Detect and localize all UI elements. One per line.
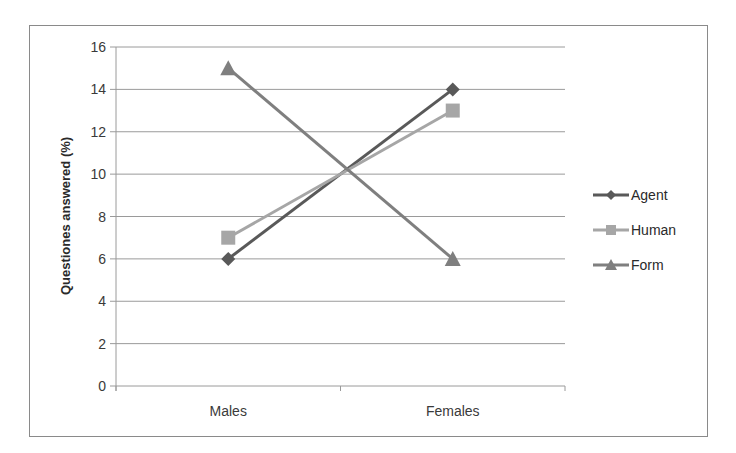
y-tick-label: 8: [98, 209, 106, 225]
legend-item-human: Human: [593, 222, 676, 238]
y-tick-label: 0: [98, 378, 106, 394]
triangle-marker-icon: [220, 60, 236, 75]
x-tick-label: Females: [426, 403, 480, 419]
axes: [110, 47, 565, 391]
diamond-marker-icon: [606, 190, 616, 200]
data-series: [220, 60, 461, 266]
x-tick-label: Males: [210, 403, 247, 419]
y-tick-labels: 0246810121416: [90, 39, 106, 394]
square-marker-icon: [606, 225, 616, 235]
gridlines: [116, 47, 565, 344]
square-marker-icon: [221, 231, 235, 245]
legend-label: Human: [631, 222, 676, 238]
square-marker-icon: [446, 104, 460, 118]
y-tick-label: 6: [98, 251, 106, 267]
y-tick-label: 10: [90, 166, 106, 182]
legend-item-form: Form: [593, 257, 664, 273]
series-line: [228, 68, 453, 259]
series-form: [220, 60, 461, 266]
y-axis-title: Questiones answered (%): [58, 137, 73, 295]
y-tick-label: 2: [98, 336, 106, 352]
legend-label: Form: [631, 257, 664, 273]
y-tick-label: 12: [90, 124, 106, 140]
legend: AgentHumanForm: [593, 187, 676, 273]
legend-item-agent: Agent: [593, 187, 668, 203]
legend-label: Agent: [631, 187, 668, 203]
y-tick-label: 14: [90, 81, 106, 97]
line-chart: 0246810121416 MalesFemales Questiones an…: [0, 0, 736, 453]
y-tick-label: 16: [90, 39, 106, 55]
y-tick-label: 4: [98, 293, 106, 309]
x-tick-labels: MalesFemales: [210, 403, 480, 419]
